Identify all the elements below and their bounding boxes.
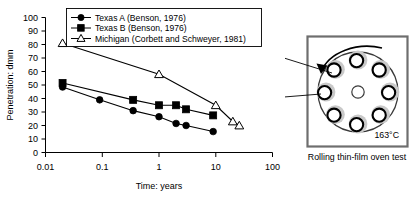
x-tick-label: 100: [265, 162, 280, 172]
data-point-circle: [210, 128, 217, 135]
y-axis-ticks: [42, 18, 46, 153]
y-tick-label: 50: [28, 80, 38, 90]
y-tick-label: 40: [28, 94, 38, 104]
series-layer: [58, 39, 244, 135]
data-point-circle: [96, 97, 103, 104]
jar: [326, 60, 345, 79]
data-point-circle: [173, 120, 180, 127]
jar: [317, 83, 336, 102]
y-tick-label: 70: [28, 53, 38, 63]
legend-label: Texas B (Benson, 1976): [95, 23, 187, 33]
figure-root: 0 10 20 30 40 50 60 70 80 90 100 Penetra…: [0, 0, 419, 200]
circle-filled-icon: [78, 14, 84, 20]
series-line: [63, 87, 214, 132]
jar: [371, 60, 390, 79]
square-filled-icon: [78, 25, 85, 32]
legend-label: Michigan (Corbett and Schweyer, 1981): [95, 34, 246, 44]
data-point-triangle: [211, 101, 220, 109]
jar: [349, 115, 368, 134]
chart-legend: Texas A (Benson, 1976) Texas B (Benson, …: [67, 9, 262, 47]
data-point-square: [173, 102, 180, 109]
jar: [349, 51, 368, 70]
oven-temperature-label: 163°C: [374, 130, 399, 140]
x-axis-tick-labels: 0.01 0.1 1 10 100: [37, 162, 280, 172]
series-2: [59, 79, 217, 118]
y-tick-label: 80: [28, 40, 38, 50]
jar: [381, 83, 400, 102]
diagram-caption: Rolling thin-film oven test: [308, 152, 407, 162]
jar: [371, 105, 390, 124]
x-tick-label: 10: [211, 162, 221, 172]
y-tick-label: 20: [28, 121, 38, 131]
x-axis-title: Time: years: [136, 181, 183, 191]
data-point-square: [59, 79, 66, 86]
data-point-square: [156, 102, 163, 109]
data-point-circle: [156, 113, 163, 120]
data-point-square: [183, 106, 190, 113]
rtfot-diagram: 163°C Rolling thin-film oven test Bitume…: [285, 0, 419, 200]
series-1: [59, 84, 216, 135]
data-point-circle: [130, 107, 137, 114]
series-line: [63, 83, 214, 115]
diagram-svg: 163°C Rolling thin-film oven test: [285, 0, 419, 200]
data-point-triangle: [58, 39, 67, 47]
legend-entry-michigan: Michigan (Corbett and Schweyer, 1981): [71, 34, 246, 44]
legend-label: Texas A (Benson, 1976): [95, 13, 186, 23]
y-tick-label: 60: [28, 67, 38, 77]
carriage-hub: [352, 86, 364, 98]
y-tick-label: 0: [33, 148, 38, 158]
x-tick-label: 0.1: [96, 162, 109, 172]
x-tick-label: 0.01: [37, 162, 55, 172]
y-tick-label: 90: [28, 26, 38, 36]
jar: [326, 105, 345, 124]
y-tick-label: 10: [28, 134, 38, 144]
x-tick-label: 1: [156, 162, 161, 172]
chart-svg: 0 10 20 30 40 50 60 70 80 90 100 Penetra…: [0, 0, 285, 200]
y-tick-label: 100: [23, 13, 38, 23]
data-point-triangle: [155, 70, 164, 78]
penetration-vs-time-chart: 0 10 20 30 40 50 60 70 80 90 100 Penetra…: [0, 0, 285, 200]
data-point-square: [210, 112, 217, 119]
y-tick-label: 30: [28, 107, 38, 117]
y-axis-title: Penetration: dmm: [5, 49, 15, 120]
data-point-square: [130, 96, 137, 103]
data-point-circle: [183, 122, 190, 129]
x-axis-ticks: [46, 153, 273, 158]
y-axis-tick-labels: 0 10 20 30 40 50 60 70 80 90 100: [23, 13, 38, 158]
